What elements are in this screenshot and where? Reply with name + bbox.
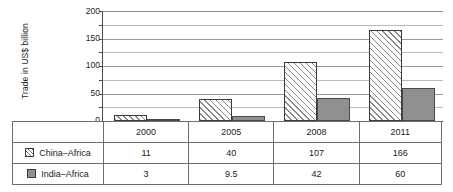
bar-china-africa-2005[interactable]: [199, 99, 232, 121]
y-axis-title: Trade in US$ billion: [20, 6, 30, 116]
legend-label-india-africa: India–Africa: [41, 169, 89, 179]
value-india-africa-2005: 9.5: [189, 164, 274, 185]
bar-group-2011: [358, 11, 443, 121]
value-india-africa-2008: 42: [274, 164, 359, 185]
table-row: China–Africa 11 40 107 166: [13, 143, 442, 164]
value-india-africa-2000: 3: [104, 164, 189, 185]
value-china-africa-2008: 107: [274, 143, 359, 164]
value-china-africa-2011: 166: [359, 143, 441, 164]
table-row: India–Africa 3 9.5 42 60: [13, 164, 442, 185]
table-corner-cell: [13, 122, 104, 143]
year-header-2005: 2005: [189, 122, 274, 143]
bar-china-africa-2008[interactable]: [284, 62, 317, 121]
hatched-square-icon: [25, 148, 34, 157]
year-header-2000: 2000: [104, 122, 189, 143]
y-axis-tick-labels: 200 150 100 50 0: [74, 0, 100, 125]
plot-axes: [102, 11, 443, 122]
chart-figure: Trade in US$ billion 200 150 100 50 0: [0, 0, 453, 192]
bar-china-africa-2011[interactable]: [369, 30, 402, 121]
table-row-years: 2000 2005 2008 2011: [13, 122, 442, 143]
value-china-africa-2000: 11: [104, 143, 189, 164]
legend-india-africa: India–Africa: [13, 164, 104, 185]
year-header-2008: 2008: [274, 122, 359, 143]
bar-india-africa-2008[interactable]: [317, 98, 350, 121]
bar-india-africa-2011[interactable]: [402, 88, 435, 121]
y-tick-200: 200: [86, 7, 100, 15]
legend-label-china-africa: China–Africa: [39, 148, 91, 158]
y-tick-100: 100: [86, 61, 100, 69]
data-table: 2000 2005 2008 2011 China–Africa 11 40 1…: [12, 121, 442, 185]
gray-square-icon: [27, 169, 36, 178]
value-india-africa-2011: 60: [359, 164, 441, 185]
year-header-2011: 2011: [359, 122, 441, 143]
bar-group-2005: [188, 11, 273, 121]
value-china-africa-2005: 40: [189, 143, 274, 164]
legend-china-africa: China–Africa: [13, 143, 104, 164]
plot-region: Trade in US$ billion 200 150 100 50 0: [0, 0, 453, 125]
bar-group-2000: [103, 11, 188, 121]
bar-group-2008: [273, 11, 358, 121]
y-tick-150: 150: [86, 34, 100, 42]
